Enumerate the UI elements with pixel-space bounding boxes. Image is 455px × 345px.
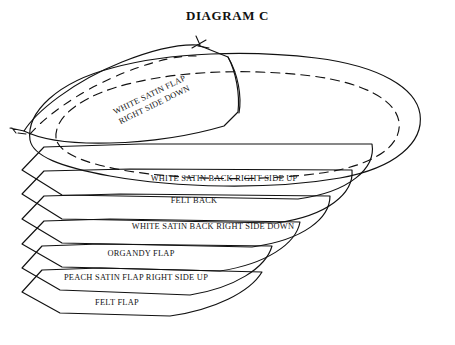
- layer-label-white-satin-back-rsu: WHITE SATIN BACK RIGHT SIDE UP: [151, 174, 298, 183]
- layer-label-peach-satin-flap: PEACH SATIN FLAP RIGHT SIDE UP: [64, 273, 208, 282]
- layer-label-felt-flap: FELT FLAP: [95, 298, 139, 307]
- diagram-illustration: [0, 0, 455, 345]
- oval-back-panel: [30, 53, 421, 186]
- layer-shape-white-satin-back-rsu: [22, 144, 372, 199]
- layer-label-organdy-flap: ORGANDY FLAP: [107, 249, 174, 258]
- layer-label-white-satin-back-rsd: WHITE SATIN BACK RIGHT SIDE DOWN: [132, 222, 295, 231]
- thread-notch-icon: [192, 36, 209, 48]
- diagram-canvas: DIAGRAM C: [0, 0, 455, 345]
- oval-stitch-dashed: [56, 72, 399, 179]
- left-thread-notch-icon: [10, 128, 26, 134]
- layer-shape-white-satin-flap: [24, 45, 239, 143]
- layer-label-felt-back: FELT BACK: [171, 196, 218, 205]
